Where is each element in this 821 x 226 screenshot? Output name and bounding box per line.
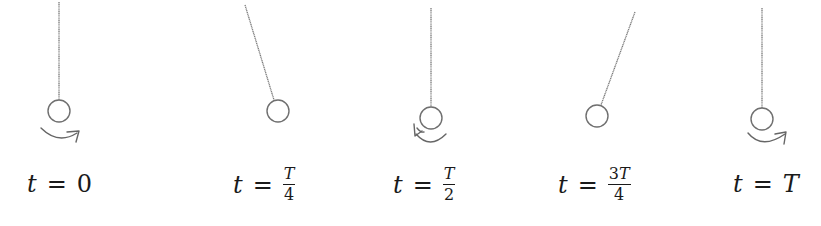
fraction-numerator: T (443, 166, 456, 184)
curved-arrow-right-icon (748, 132, 786, 144)
time-variable: t (733, 172, 743, 196)
fraction-numerator: 3T (608, 166, 631, 184)
snapshot-t-half-period (414, 8, 446, 142)
time-variable: t (233, 173, 243, 197)
snapshot-t-three-quarter-period (586, 12, 635, 127)
pendulum-bob (586, 105, 608, 127)
equals-sign: = (47, 172, 67, 196)
equals-sign: = (578, 173, 598, 197)
time-value: T (783, 172, 799, 196)
fraction-denominator: 4 (284, 185, 294, 204)
time-variable: t (27, 172, 37, 196)
equals-sign: = (413, 173, 433, 197)
time-variable: t (393, 173, 403, 197)
label-t-three-quarter-period: t = 3T 4 (558, 166, 631, 204)
pendulum-bob (751, 108, 773, 130)
snapshot-t0 (41, 2, 79, 142)
time-variable: t (558, 173, 568, 197)
fraction: T 4 (283, 166, 296, 204)
pendulum-string (601, 12, 635, 105)
snapshot-t-quarter-period (245, 5, 289, 122)
fraction-denominator: 4 (614, 185, 624, 204)
time-value: 0 (77, 172, 92, 196)
pendulum-bob (420, 107, 442, 129)
fraction: T 2 (443, 166, 456, 204)
snapshot-t-period (748, 8, 786, 144)
label-t-period: t = T (733, 172, 799, 196)
label-t0: t = 0 (27, 172, 92, 196)
fraction-denominator: 2 (444, 185, 454, 204)
fraction: 3T 4 (608, 166, 631, 204)
equals-sign: = (753, 172, 773, 196)
pendulum-bob (48, 100, 70, 122)
pendulum-string (245, 5, 274, 100)
label-t-quarter-period: t = T 4 (233, 166, 295, 204)
equals-sign: = (253, 173, 273, 197)
fraction-numerator: T (283, 166, 296, 184)
pendulum-bob (267, 100, 289, 122)
label-t-half-period: t = T 2 (393, 166, 455, 204)
curved-arrow-right-icon (41, 128, 79, 142)
